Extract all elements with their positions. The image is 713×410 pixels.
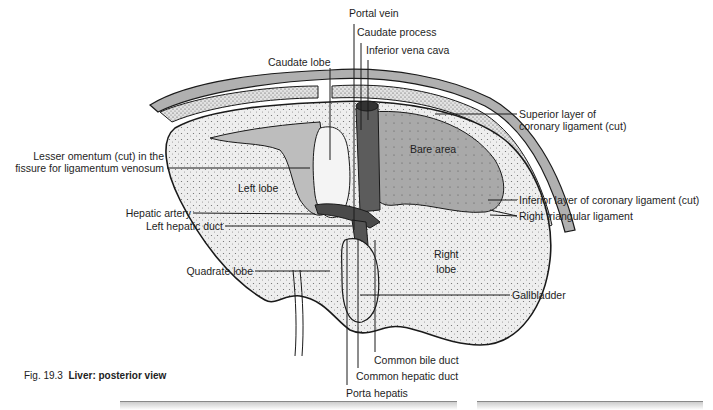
region-right-lobe-line1: Right — [434, 247, 459, 262]
label-common-bile-duct: Common bile duct — [374, 354, 459, 366]
figure-caption: Fig. 19.3 Liver: posterior view — [24, 370, 166, 381]
label-gallbladder: Gallbladder — [512, 289, 566, 301]
label-porta-hepatis: Porta hepatis — [346, 387, 408, 399]
label-caudate-lobe: Caudate lobe — [268, 56, 330, 68]
label-superior-layer: Superior layer of coronary ligament (cut… — [519, 108, 626, 132]
label-caudate-process: Caudate process — [357, 26, 436, 38]
region-right-lobe: Right lobe — [434, 247, 459, 277]
figure-title: Liver: posterior view — [68, 370, 166, 381]
page-bottom-box-right — [477, 401, 703, 410]
label-inferior-layer: Inferior layer of coronary ligament (cut… — [519, 194, 699, 206]
label-lesser-omentum: Lesser omentum (cut) in the fissure for … — [15, 150, 164, 174]
label-lesser-omentum-line1: Lesser omentum (cut) in the — [15, 150, 164, 162]
label-superior-layer-line1: Superior layer of — [519, 108, 626, 120]
label-lesser-omentum-line2: fissure for ligamentum venosum — [15, 162, 164, 174]
label-common-hepatic-duct: Common hepatic duct — [356, 370, 458, 382]
figure-number: Fig. 19.3 — [24, 370, 63, 381]
region-left-lobe: Left lobe — [238, 181, 278, 196]
label-portal-vein: Portal vein — [349, 7, 399, 19]
page-bottom-box-left — [120, 401, 457, 410]
region-right-lobe-line2: lobe — [434, 262, 459, 277]
label-quadrate-lobe: Quadrate lobe — [186, 265, 253, 277]
label-hepatic-artery: Hepatic artery — [126, 207, 191, 219]
inferior-vena-cava — [356, 104, 380, 212]
label-inferior-vena-cava: Inferior vena cava — [366, 44, 449, 56]
label-left-hepatic-duct: Left hepatic duct — [146, 220, 223, 232]
label-right-triangular-ligament: Right triangular ligament — [519, 210, 633, 222]
region-bare-area: Bare area — [410, 142, 456, 157]
label-superior-layer-line2: coronary ligament (cut) — [519, 120, 626, 132]
